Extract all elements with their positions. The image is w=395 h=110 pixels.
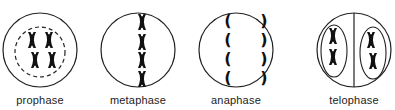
svg-text:): ): [260, 11, 267, 30]
nuclear-envelope: [15, 27, 65, 77]
anaphase-label: anaphase: [191, 94, 281, 106]
svg-text:(: (: [224, 68, 231, 87]
svg-text:): ): [260, 49, 267, 68]
telophase-label: telophase: [309, 94, 395, 106]
svg-text:(: (: [224, 11, 231, 30]
telophase-cell: [317, 13, 391, 87]
mitosis-diagram: ( ( ( ( ) ) ) ): [0, 0, 395, 95]
prophase-cell: [3, 13, 77, 87]
svg-text:): ): [260, 68, 267, 87]
metaphase-label: metaphase: [93, 94, 183, 106]
anaphase-cell: ( ( ( ( ) ) ) ): [199, 11, 273, 87]
svg-text:(: (: [224, 30, 231, 49]
svg-text:(: (: [224, 49, 231, 68]
metaphase-cell: [101, 13, 175, 87]
prophase-label: prophase: [0, 94, 85, 106]
svg-text:): ): [260, 30, 267, 49]
